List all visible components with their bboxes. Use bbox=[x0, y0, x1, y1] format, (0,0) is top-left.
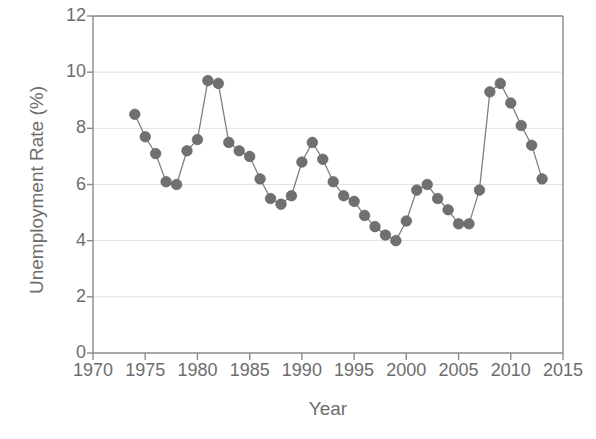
x-tick-label: 1975 bbox=[115, 360, 175, 381]
x-tick-label: 1980 bbox=[167, 360, 227, 381]
chart-figure: Unemployment Rate (%) 024681012 19701975… bbox=[0, 0, 596, 439]
x-tick-label: 1990 bbox=[272, 360, 332, 381]
x-axis-title: Year bbox=[93, 398, 563, 420]
x-tick-label: 2010 bbox=[481, 360, 541, 381]
x-tick-label: 1970 bbox=[63, 360, 123, 381]
x-tick-label: 1985 bbox=[220, 360, 280, 381]
x-tick-label: 2015 bbox=[533, 360, 593, 381]
x-tick-label: 1995 bbox=[324, 360, 384, 381]
x-axis-tick-labels: 1970197519801985199019952000200520102015 bbox=[0, 0, 596, 439]
x-tick-label: 2000 bbox=[376, 360, 436, 381]
x-tick-label: 2005 bbox=[429, 360, 489, 381]
